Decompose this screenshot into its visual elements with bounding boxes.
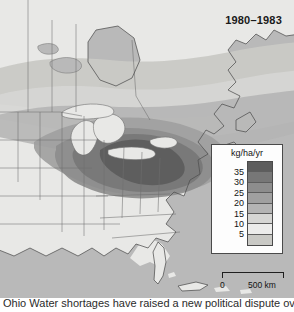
legend-color-ramp	[247, 161, 273, 246]
legend-label-10: 10	[214, 219, 244, 229]
legend-value-labels: 35 30 25 20 15 10 5	[214, 167, 244, 240]
caption-strip: Ohio Water shortages have raised a new p…	[0, 298, 294, 312]
legend-swatch-3	[248, 193, 272, 203]
legend-swatch-6	[248, 224, 272, 234]
scale-bar-rule	[222, 272, 284, 278]
scale-bar-end-label: 500 km	[248, 280, 276, 290]
legend-label-15: 15	[214, 209, 244, 219]
legend-body: 35 30 25 20 15 10 5	[212, 161, 282, 251]
legend-label-35: 35	[214, 167, 244, 177]
map-canvas: 1980–1983 kg/ha/yr 35 30 25 20 15 10 5	[0, 0, 294, 298]
scale-bar-start-label: 0	[220, 280, 225, 290]
acid-deposition-map-figure: 1980–1983 kg/ha/yr 35 30 25 20 15 10 5	[0, 0, 294, 312]
legend-label-5: 5	[214, 229, 244, 239]
legend-swatch-7	[248, 235, 272, 245]
caption-text: Ohio Water shortages have raised a new p…	[3, 298, 294, 309]
legend-panel[interactable]: kg/ha/yr 35 30 25 20 15 10 5	[211, 144, 283, 254]
legend-swatch-2	[248, 183, 272, 193]
legend-swatch-0	[248, 162, 272, 172]
scale-bar: 0 500 km	[222, 272, 284, 292]
bahamas-island	[168, 272, 176, 278]
legend-swatch-4	[248, 204, 272, 214]
legend-swatch-5	[248, 214, 272, 224]
legend-label-30: 30	[214, 177, 244, 187]
legend-units-label: kg/ha/yr	[212, 148, 282, 158]
cuba-island	[178, 282, 208, 291]
legend-label-20: 20	[214, 198, 244, 208]
legend-label-25: 25	[214, 188, 244, 198]
map-title: 1980–1983	[225, 14, 282, 26]
legend-swatch-1	[248, 172, 272, 182]
